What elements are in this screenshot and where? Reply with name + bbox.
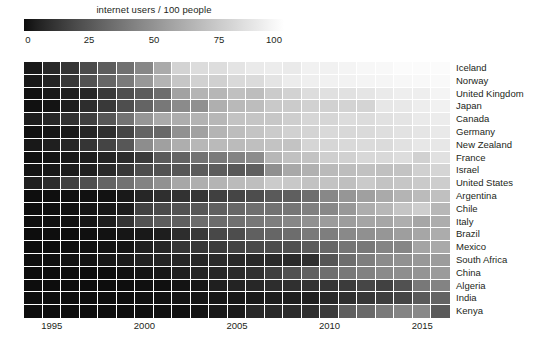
heatmap-cell[interactable] <box>154 88 173 101</box>
heatmap-cell[interactable] <box>431 280 450 293</box>
heatmap-cell[interactable] <box>357 190 376 203</box>
heatmap-cell[interactable] <box>320 280 339 293</box>
heatmap-cell[interactable] <box>98 305 117 318</box>
heatmap-cell[interactable] <box>320 75 339 88</box>
heatmap-cell[interactable] <box>154 152 173 165</box>
heatmap-cell[interactable] <box>154 292 173 305</box>
heatmap-cell[interactable] <box>135 75 154 88</box>
heatmap-cell[interactable] <box>154 305 173 318</box>
heatmap-cell[interactable] <box>431 216 450 229</box>
heatmap-cell[interactable] <box>246 75 265 88</box>
heatmap-cell[interactable] <box>283 267 302 280</box>
heatmap-cell[interactable] <box>154 216 173 229</box>
heatmap-cell[interactable] <box>265 100 284 113</box>
heatmap-cell[interactable] <box>320 292 339 305</box>
heatmap-cell[interactable] <box>24 139 43 152</box>
heatmap-cell[interactable] <box>394 126 413 139</box>
heatmap-cell[interactable] <box>191 62 210 75</box>
heatmap-cell[interactable] <box>302 113 321 126</box>
heatmap-cell[interactable] <box>209 75 228 88</box>
heatmap-cell[interactable] <box>376 228 395 241</box>
heatmap-cell[interactable] <box>357 216 376 229</box>
heatmap-cell[interactable] <box>265 152 284 165</box>
heatmap-cell[interactable] <box>43 228 62 241</box>
heatmap-cell[interactable] <box>413 254 432 267</box>
heatmap-cell[interactable] <box>283 254 302 267</box>
heatmap-cell[interactable] <box>283 241 302 254</box>
heatmap-cell[interactable] <box>98 228 117 241</box>
heatmap-cell[interactable] <box>413 203 432 216</box>
heatmap-cell[interactable] <box>61 305 80 318</box>
heatmap-cell[interactable] <box>117 164 136 177</box>
heatmap-cell[interactable] <box>320 177 339 190</box>
heatmap-cell[interactable] <box>431 267 450 280</box>
heatmap-cell[interactable] <box>191 88 210 101</box>
heatmap-cell[interactable] <box>24 100 43 113</box>
heatmap-cell[interactable] <box>98 292 117 305</box>
heatmap-cell[interactable] <box>246 280 265 293</box>
heatmap-cell[interactable] <box>413 280 432 293</box>
heatmap-cell[interactable] <box>135 292 154 305</box>
heatmap-cell[interactable] <box>394 305 413 318</box>
heatmap-cell[interactable] <box>154 113 173 126</box>
heatmap-cell[interactable] <box>135 88 154 101</box>
heatmap-cell[interactable] <box>24 203 43 216</box>
heatmap-cell[interactable] <box>24 267 43 280</box>
heatmap-cell[interactable] <box>357 292 376 305</box>
heatmap-cell[interactable] <box>24 241 43 254</box>
heatmap-cell[interactable] <box>61 216 80 229</box>
heatmap-cell[interactable] <box>117 113 136 126</box>
heatmap-cell[interactable] <box>302 100 321 113</box>
heatmap-cell[interactable] <box>80 113 99 126</box>
heatmap-cell[interactable] <box>302 139 321 152</box>
heatmap-cell[interactable] <box>61 228 80 241</box>
heatmap-cell[interactable] <box>228 292 247 305</box>
heatmap-cell[interactable] <box>191 126 210 139</box>
heatmap-cell[interactable] <box>43 62 62 75</box>
heatmap-cell[interactable] <box>117 267 136 280</box>
heatmap-cell[interactable] <box>191 164 210 177</box>
heatmap-cell[interactable] <box>376 280 395 293</box>
heatmap-cell[interactable] <box>61 203 80 216</box>
heatmap-cell[interactable] <box>24 164 43 177</box>
heatmap-cell[interactable] <box>339 113 358 126</box>
heatmap-cell[interactable] <box>61 267 80 280</box>
heatmap-cell[interactable] <box>376 152 395 165</box>
heatmap-cell[interactable] <box>209 164 228 177</box>
heatmap-cell[interactable] <box>302 280 321 293</box>
heatmap-cell[interactable] <box>394 216 413 229</box>
heatmap-cell[interactable] <box>431 305 450 318</box>
heatmap-cell[interactable] <box>117 292 136 305</box>
heatmap-cell[interactable] <box>98 216 117 229</box>
heatmap-cell[interactable] <box>172 164 191 177</box>
heatmap-cell[interactable] <box>357 62 376 75</box>
heatmap-cell[interactable] <box>80 126 99 139</box>
heatmap-cell[interactable] <box>61 75 80 88</box>
heatmap-cell[interactable] <box>246 88 265 101</box>
heatmap-cell[interactable] <box>357 305 376 318</box>
heatmap-cell[interactable] <box>80 75 99 88</box>
heatmap-cell[interactable] <box>24 88 43 101</box>
heatmap-cell[interactable] <box>117 216 136 229</box>
heatmap-cell[interactable] <box>283 280 302 293</box>
heatmap-cell[interactable] <box>172 292 191 305</box>
heatmap-cell[interactable] <box>413 152 432 165</box>
heatmap-cell[interactable] <box>431 113 450 126</box>
heatmap-cell[interactable] <box>357 126 376 139</box>
heatmap-cell[interactable] <box>209 203 228 216</box>
heatmap-cell[interactable] <box>154 164 173 177</box>
heatmap-cell[interactable] <box>376 190 395 203</box>
heatmap-cell[interactable] <box>431 254 450 267</box>
heatmap-cell[interactable] <box>246 62 265 75</box>
heatmap-cell[interactable] <box>80 254 99 267</box>
heatmap-cell[interactable] <box>394 203 413 216</box>
heatmap-cell[interactable] <box>376 267 395 280</box>
heatmap-cell[interactable] <box>98 177 117 190</box>
heatmap-cell[interactable] <box>339 152 358 165</box>
heatmap-cell[interactable] <box>357 267 376 280</box>
heatmap-cell[interactable] <box>431 177 450 190</box>
heatmap-cell[interactable] <box>61 292 80 305</box>
heatmap-cell[interactable] <box>265 190 284 203</box>
heatmap-cell[interactable] <box>431 228 450 241</box>
heatmap-cell[interactable] <box>320 241 339 254</box>
